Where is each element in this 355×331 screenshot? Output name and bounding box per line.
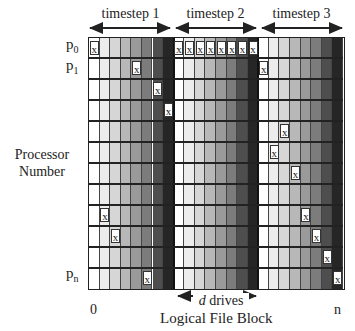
block-mark: x [111,229,120,243]
timestep-block-1 [89,38,174,289]
pn-base: p [66,265,74,281]
file-block-grid: xxxxxxxxxxxxxxxxxxxxxxx [88,37,345,290]
timestep-block-2 [174,38,259,289]
p1-sub: 1 [74,65,79,76]
x-axis-start-label: 0 [90,302,97,318]
drive-column [269,38,280,289]
block-mark: x [259,61,268,75]
block-mark: x [280,124,289,138]
block-mark: x [217,41,226,55]
block-mark: x [100,208,109,222]
row-divider [89,183,343,185]
timestep-1-label: timestep 1 [88,6,173,22]
drives-label-d: d [199,293,206,308]
block-mark: x [249,41,258,55]
drives-label: d drives [193,293,249,308]
row-divider [89,99,343,101]
block-mark: x [270,145,279,159]
drive-column [121,38,132,289]
processor-p0-label: p0 [66,36,79,55]
row-divider [89,225,343,227]
drive-column [258,38,269,289]
pn-sub: n [74,273,79,284]
drive-column [237,38,248,289]
drives-label-rest: drives [206,293,244,308]
drive-column [131,38,142,289]
row-divider [89,162,343,164]
block-mark: x [291,166,300,180]
drive-column [174,38,185,289]
drive-column [89,38,100,289]
row-divider [89,78,343,80]
block-separator [173,38,175,289]
processor-p1-label: p1 [66,57,79,76]
processor-pn-label: pn [66,265,79,284]
block-mark: x [132,61,141,75]
drive-column [110,38,121,289]
row-divider [89,141,343,143]
timestep-3-label: timestep 3 [258,6,345,22]
x-axis-label: Logical File Block [160,310,300,327]
p0-sub: 0 [74,44,79,55]
y-axis-label: Processor Number [2,146,82,180]
timestep-2-arrow [176,27,256,29]
block-separator [257,38,259,289]
block-mark: x [164,103,173,117]
row-divider [89,204,343,206]
p0-base: p [66,36,74,52]
row-divider [89,57,343,59]
timestep-3-arrow [262,27,342,29]
drive-column [153,38,164,289]
block-mark: x [143,271,152,285]
drive-column [205,38,216,289]
x-axis-end-label: n [334,302,341,318]
timestep-2-label: timestep 2 [173,6,258,22]
drive-column [184,38,195,289]
drive-column [227,38,238,289]
drive-column [332,38,343,289]
block-mark: x [227,41,236,55]
row-divider [89,246,343,248]
row-divider [89,267,343,269]
block-mark: x [90,41,99,55]
block-mark: x [323,250,332,264]
block-mark: x [206,41,215,55]
drive-column [311,38,322,289]
block-mark: x [153,82,162,96]
block-mark: x [185,41,194,55]
drive-column [216,38,227,289]
block-mark: x [174,41,183,55]
block-mark: x [333,271,342,285]
y-axis-label-line1: Processor [2,146,82,163]
block-mark: x [238,41,247,55]
y-axis-label-line2: Number [2,163,82,180]
timestep-1-arrow [90,27,170,29]
drive-column [142,38,153,289]
drive-column [195,38,206,289]
drive-column [290,38,301,289]
drive-column [301,38,312,289]
block-mark: x [196,41,205,55]
p1-base: p [66,57,74,73]
block-mark: x [312,229,321,243]
block-mark: x [301,208,310,222]
row-divider [89,120,343,122]
drive-column [279,38,290,289]
drive-column [100,38,111,289]
